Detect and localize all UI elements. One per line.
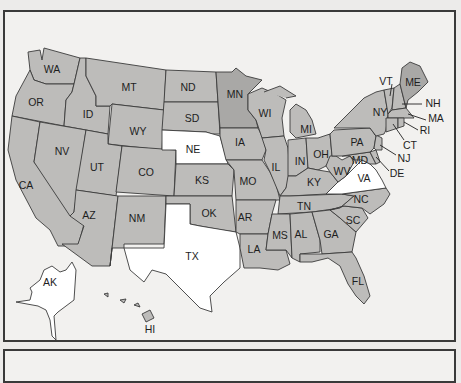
label-VT: VT (379, 75, 393, 87)
label-OR: OR (28, 96, 44, 108)
state-RI[interactable] (398, 118, 404, 128)
label-VA: VA (357, 172, 370, 184)
label-WV: WV (334, 165, 351, 177)
label-PA: PA (350, 136, 363, 148)
label-UT: UT (90, 161, 105, 173)
label-AZ: AZ (82, 209, 96, 221)
label-DE: DE (390, 167, 405, 179)
label-AL: AL (295, 228, 308, 240)
state-CT[interactable] (386, 118, 398, 132)
label-FL: FL (352, 275, 364, 287)
label-CT: CT (403, 139, 418, 151)
label-WY: WY (130, 125, 147, 137)
label-IN: IN (295, 155, 306, 167)
label-IA: IA (235, 136, 245, 148)
label-TX: TX (185, 250, 198, 262)
label-MI: MI (300, 123, 312, 135)
label-KY: KY (307, 176, 321, 188)
label-SD: SD (185, 112, 200, 124)
label-IL: IL (272, 161, 281, 173)
label-OH: OH (313, 148, 329, 160)
label-MT: MT (121, 81, 137, 93)
leader-DE (376, 157, 389, 171)
state-AK[interactable] (16, 262, 76, 340)
label-HI: HI (145, 323, 156, 335)
label-SC: SC (346, 214, 361, 226)
label-AK: AK (43, 276, 57, 288)
label-KS: KS (195, 174, 209, 186)
label-RI: RI (420, 124, 431, 136)
label-MD: MD (352, 154, 369, 166)
label-ID: ID (83, 108, 94, 120)
label-LA: LA (248, 243, 261, 255)
label-NC: NC (353, 193, 369, 205)
label-CO: CO (138, 166, 154, 178)
label-AR: AR (238, 211, 253, 223)
leader-RI (404, 122, 418, 130)
label-NH: NH (425, 97, 440, 109)
label-WA: WA (44, 63, 61, 75)
label-GA: GA (323, 228, 338, 240)
label-CA: CA (19, 179, 34, 191)
label-NJ: NJ (398, 152, 411, 164)
label-NE: NE (186, 143, 201, 155)
label-TN: TN (297, 200, 311, 212)
label-MO: MO (240, 175, 257, 187)
label-NV: NV (55, 145, 70, 157)
label-MS: MS (272, 229, 288, 241)
label-OK: OK (201, 207, 216, 219)
label-MN: MN (227, 88, 243, 100)
state-HI[interactable] (104, 293, 154, 322)
label-MA: MA (428, 112, 444, 124)
label-NM: NM (129, 212, 145, 224)
label-ME: ME (405, 76, 421, 88)
label-NY: NY (373, 106, 388, 118)
label-ND: ND (180, 81, 196, 93)
label-WI: WI (259, 107, 272, 119)
